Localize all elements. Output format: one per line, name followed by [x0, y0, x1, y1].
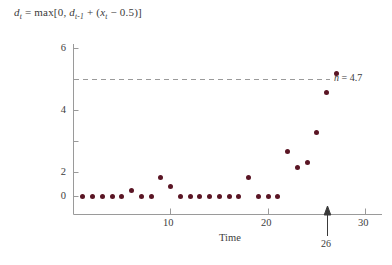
data-point: [256, 194, 261, 199]
x-tick-label-20: 20: [261, 217, 272, 228]
data-point: [246, 175, 251, 180]
data-point: [305, 160, 310, 165]
data-point: [217, 194, 222, 199]
data-point: [178, 194, 183, 199]
data-point: [129, 188, 134, 193]
data-point: [266, 194, 271, 199]
data-point: [227, 194, 232, 199]
data-point: [295, 165, 300, 170]
x-tick-label-10: 10: [163, 217, 174, 228]
x-axis: [74, 209, 383, 215]
y-axis: [74, 44, 79, 215]
data-point: [207, 194, 212, 199]
data-point: [285, 149, 290, 154]
signal-arrow-icon: [324, 206, 331, 236]
x-tick-label-30: 30: [358, 217, 369, 228]
threshold-value: = 4.7: [339, 72, 362, 83]
data-point: [324, 90, 329, 95]
y-tick-label-0: 0: [52, 190, 66, 201]
data-point: [110, 194, 115, 199]
data-point: [139, 194, 144, 199]
data-point: [90, 194, 95, 199]
data-point: [158, 175, 163, 180]
y-tick-label-4: 4: [52, 104, 66, 115]
x-axis-title: Time: [219, 232, 241, 243]
data-point: [314, 130, 319, 135]
signal-marker-label: 26: [321, 238, 331, 249]
figure-root: dt = max[0, dt-1 + (xt − 0.5)] 6 4 2 0 1…: [0, 0, 392, 265]
data-point: [149, 194, 154, 199]
scatter-plot: [0, 0, 392, 265]
y-tick-label-2: 2: [52, 166, 66, 177]
y-tick-label-6: 6: [52, 42, 66, 53]
data-point: [100, 194, 105, 199]
data-point: [188, 194, 193, 199]
